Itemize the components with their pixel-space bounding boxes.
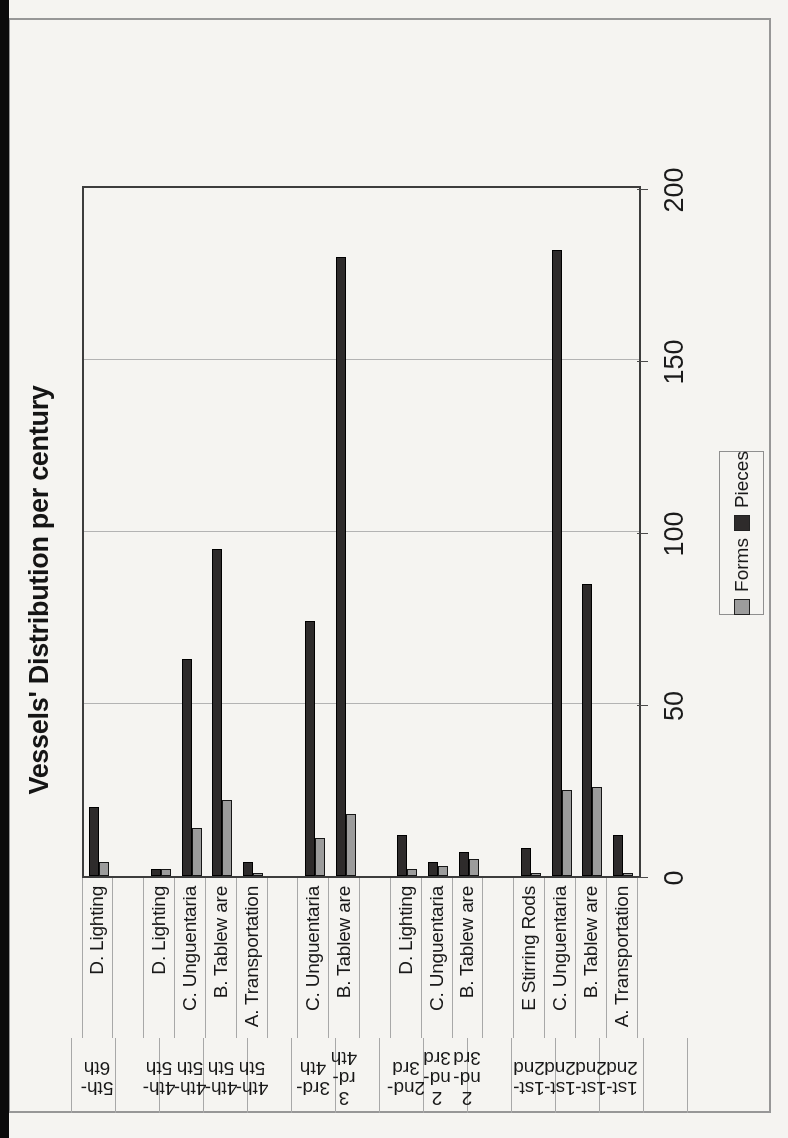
century-label-line: 5th- xyxy=(81,1078,114,1098)
category-separator xyxy=(482,878,483,1038)
value-axis-label: 0 xyxy=(659,838,690,918)
category-separator xyxy=(390,878,391,1038)
bar-pieces xyxy=(243,862,253,876)
chart-canvas: Vessels' Distribution per century Forms … xyxy=(0,0,788,1138)
century-separator xyxy=(115,1038,116,1113)
bar-forms xyxy=(346,814,356,876)
century-label: 1st-2nd xyxy=(544,1058,576,1098)
century-label: 4th-5th xyxy=(174,1058,207,1098)
category-separator xyxy=(452,878,453,1038)
century-label: 3rd-4th xyxy=(296,1058,330,1098)
century-label: 2nd-3rd xyxy=(423,1048,450,1108)
category-separator xyxy=(575,878,576,1038)
bar-forms xyxy=(562,790,572,876)
category-label: D. Lighting xyxy=(147,886,171,1043)
category-label: C. Unguentaria xyxy=(301,886,325,1043)
category-separator xyxy=(112,878,113,1038)
bar-forms xyxy=(438,866,448,876)
bar-pieces xyxy=(182,659,192,876)
bar-forms xyxy=(531,873,541,876)
bar-forms xyxy=(253,873,263,876)
category-separator xyxy=(267,878,268,1038)
category-separator xyxy=(359,878,360,1038)
value-axis-label: 150 xyxy=(659,322,690,402)
category-separator xyxy=(328,878,329,1038)
century-label-line: 4th xyxy=(331,1048,357,1068)
bar-forms xyxy=(592,787,602,876)
value-axis-label: 100 xyxy=(659,494,690,574)
bar-pieces xyxy=(552,250,562,876)
century-label: 3rd-4th xyxy=(331,1048,357,1108)
category-label: A. Transportation xyxy=(240,886,264,1043)
value-axis-tick xyxy=(637,534,648,535)
century-label-line: 1st- xyxy=(513,1078,545,1098)
category-label: C. Unguentaria xyxy=(425,886,449,1043)
bar-pieces xyxy=(397,835,407,876)
century-label: 1st-2nd xyxy=(513,1058,545,1098)
century-label-line: 5th xyxy=(174,1058,207,1078)
category-separator xyxy=(82,878,83,1038)
century-label-line: 4th- xyxy=(174,1078,207,1098)
century-label-line: 1st- xyxy=(575,1078,607,1098)
century-label-line: nd- xyxy=(454,1068,481,1088)
bar-pieces xyxy=(613,835,623,876)
legend-swatch-forms xyxy=(734,599,750,615)
century-label: 4th-5th xyxy=(204,1058,237,1098)
century-label-line: 2 xyxy=(423,1088,450,1108)
bar-forms xyxy=(161,869,171,876)
century-label: 4th-5th xyxy=(235,1058,268,1098)
value-axis-tick xyxy=(637,706,648,707)
category-separator xyxy=(544,878,545,1038)
century-label-line: 3 xyxy=(331,1088,357,1108)
century-label-line: 3rd- xyxy=(296,1078,330,1098)
bar-pieces xyxy=(151,869,161,876)
century-label-line: 5th xyxy=(204,1058,237,1078)
century-label: 2nd-3rd xyxy=(387,1058,425,1098)
century-separator xyxy=(379,1038,380,1113)
legend-label-pieces: Pieces xyxy=(731,451,753,508)
bar-forms xyxy=(192,828,202,876)
century-label-line: 4th- xyxy=(143,1078,176,1098)
bar-pieces xyxy=(89,807,99,876)
century-label-line: 4th xyxy=(296,1058,330,1078)
category-separator xyxy=(297,878,298,1038)
bar-forms xyxy=(315,838,325,876)
century-separator xyxy=(291,1038,292,1113)
value-axis-tick xyxy=(637,190,648,191)
century-separator xyxy=(511,1038,512,1113)
bar-pieces xyxy=(521,848,531,876)
category-label: A. Transportation xyxy=(610,886,634,1043)
category-label: D. Lighting xyxy=(85,886,109,1043)
bar-pieces xyxy=(336,257,346,876)
century-label-line: 1st- xyxy=(606,1078,638,1098)
century-label-line: 2nd xyxy=(606,1058,638,1078)
bar-pieces xyxy=(428,862,438,876)
century-label: 4th-5th xyxy=(143,1058,176,1098)
category-label: B. Tablew are xyxy=(455,886,479,1043)
category-label: C. Unguentaria xyxy=(178,886,202,1043)
scan-edge-strip xyxy=(0,0,9,1138)
century-label-line: 3rd xyxy=(423,1048,450,1068)
century-label-line: 3rd xyxy=(387,1058,425,1078)
bar-forms xyxy=(407,869,417,876)
category-label: D. Lighting xyxy=(394,886,418,1043)
century-label-line: 5th xyxy=(143,1058,176,1078)
category-label: B. Tablew are xyxy=(332,886,356,1043)
category-separator xyxy=(143,878,144,1038)
century-label-line: 2 xyxy=(454,1088,481,1108)
century-label-line: 6th xyxy=(81,1058,114,1078)
bar-pieces xyxy=(459,852,469,876)
legend-swatch-pieces xyxy=(734,515,750,531)
century-label: 1st-2nd xyxy=(575,1058,607,1098)
century-label-line: 3rd xyxy=(454,1048,481,1068)
century-label-line: 5th xyxy=(235,1058,268,1078)
value-axis-label: 50 xyxy=(659,666,690,746)
century-label-line: 4th- xyxy=(235,1078,268,1098)
century-label-line: rd- xyxy=(331,1068,357,1088)
category-separator xyxy=(236,878,237,1038)
century-separator xyxy=(643,1038,644,1113)
bar-forms xyxy=(469,859,479,876)
category-separator xyxy=(421,878,422,1038)
century-label-line: 2nd xyxy=(575,1058,607,1078)
century-label-line: 1st- xyxy=(544,1078,576,1098)
